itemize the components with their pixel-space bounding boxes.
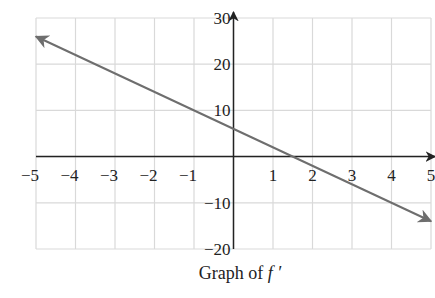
caption-prefix: Graph of (199, 263, 268, 283)
x-tick-label: 2 (308, 166, 317, 185)
x-tick-label: 5 (427, 166, 435, 185)
caption-function: f ′ (268, 263, 281, 283)
x-tick-label: −3 (100, 166, 118, 185)
x-tick-label: 1 (269, 166, 278, 185)
x-tick-label: 3 (348, 166, 357, 185)
y-tick-label: 30 (214, 9, 231, 28)
y-tick-label: −10 (204, 194, 231, 213)
tick-labels: −5−4−3−2−112345302010−10−20 (21, 9, 435, 259)
x-tick-label: 4 (387, 166, 396, 185)
x-tick-label: −1 (179, 166, 197, 185)
y-tick-label: 20 (214, 55, 231, 74)
x-tick-label: −5 (21, 166, 39, 185)
x-tick-label: −2 (139, 166, 157, 185)
y-tick-label: −20 (204, 240, 231, 259)
chart-caption: Graph of f ′ (0, 263, 435, 284)
y-tick-label: 10 (214, 101, 231, 120)
chart-canvas: −5−4−3−2−112345302010−10−20 (0, 0, 435, 298)
x-tick-label: −4 (60, 166, 79, 185)
